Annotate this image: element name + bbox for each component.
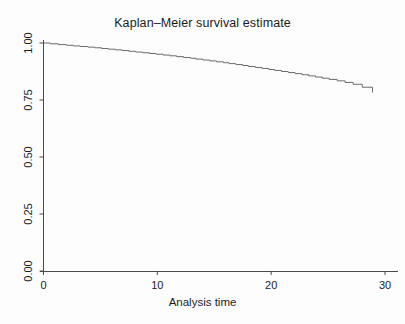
survival-curve-group <box>44 43 373 92</box>
x-axis-tick-label: 20 <box>265 279 277 291</box>
y-axis-ticks <box>40 43 44 271</box>
y-axis-tick-label: 0.50 <box>22 146 34 167</box>
chart-figure: Kaplan–Meier survival estimate 0.000.250… <box>0 0 405 324</box>
axes-group <box>40 40 398 272</box>
survival-curve-line <box>44 43 373 92</box>
x-axis-tick-label: 10 <box>151 279 163 291</box>
y-axis-tick-label: 0.75 <box>22 89 34 110</box>
y-axis-tick-label: 1.00 <box>22 32 34 53</box>
plot-canvas <box>0 0 405 324</box>
y-axis-tick-label: 0.00 <box>22 260 34 281</box>
y-axis-tick-label: 0.25 <box>22 203 34 224</box>
x-axis-tick-label: 0 <box>40 279 46 291</box>
x-axis-title: Analysis time <box>0 296 405 308</box>
x-axis-tick-label: 30 <box>379 279 391 291</box>
